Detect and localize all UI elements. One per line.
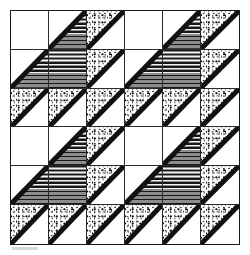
- quilt-cell: [125, 166, 163, 205]
- quilt-patch-dots: [201, 127, 239, 165]
- quilt-cell: [11, 11, 49, 50]
- quilt-patch-dots: [201, 11, 239, 49]
- pattern-grid: [11, 11, 239, 244]
- quilt-cell: [201, 50, 239, 89]
- quilt-cell: [49, 50, 87, 89]
- quilt-cell: [11, 50, 49, 89]
- quilt-patch-hatch: [125, 166, 162, 204]
- quilt-patch-hatch: [163, 50, 200, 88]
- quilt-patch-hatch: [163, 127, 200, 165]
- quilt-cell: [201, 166, 239, 205]
- quilt-patch-dots: [201, 89, 239, 127]
- quilt-cell: [87, 11, 125, 50]
- quilt-cell: [87, 127, 125, 166]
- quilt-cell: [87, 89, 125, 128]
- quilt-patch-hatch: [125, 50, 162, 88]
- quilt-patch-hatch: [11, 166, 48, 204]
- quilt-patch-dots: [163, 205, 200, 244]
- quilt-cell: [125, 50, 163, 89]
- quilt-patch-dots: [163, 89, 200, 127]
- quilt-patch-dots: [87, 89, 124, 127]
- caption-rule: [12, 247, 38, 250]
- quilt-cell: [125, 89, 163, 128]
- quilt-patch-dots: [201, 166, 239, 204]
- quilt-cell: [11, 127, 49, 166]
- quilt-patch-dots: [87, 166, 124, 204]
- quilt-patch-hatch: [49, 166, 86, 204]
- quilt-cell: [201, 205, 239, 244]
- quilt-cell: [125, 127, 163, 166]
- quilt-patch-dots: [87, 50, 124, 88]
- quilt-patch-dots: [201, 205, 239, 244]
- quilt-patch-hatch: [49, 127, 86, 165]
- quilt-patch-dots: [87, 11, 124, 49]
- quilt-cell: [163, 89, 201, 128]
- quilt-cell: [87, 166, 125, 205]
- quilt-cell: [163, 50, 201, 89]
- quilt-patch-hatch: [11, 50, 48, 88]
- quilt-cell: [49, 127, 87, 166]
- quilt-cell: [163, 205, 201, 244]
- quilt-patch-dots: [125, 89, 162, 127]
- quilt-cell: [201, 89, 239, 128]
- quilt-patch-dots: [49, 205, 86, 244]
- quilt-patch-dots: [87, 127, 124, 165]
- quilt-cell: [201, 127, 239, 166]
- quilt-patch-hatch: [49, 11, 86, 49]
- pattern-frame: [10, 10, 240, 245]
- quilt-cell: [87, 205, 125, 244]
- quilt-cell: [163, 11, 201, 50]
- quilt-patch-dots: [87, 205, 124, 244]
- quilt-patch-hatch: [49, 50, 86, 88]
- quilt-pattern-canvas: [0, 0, 250, 255]
- quilt-cell: [163, 127, 201, 166]
- quilt-cell: [11, 205, 49, 244]
- quilt-cell: [125, 11, 163, 50]
- quilt-cell: [49, 89, 87, 128]
- quilt-cell: [201, 11, 239, 50]
- quilt-cell: [49, 205, 87, 244]
- quilt-patch-hatch: [163, 166, 200, 204]
- quilt-patch-dots: [11, 205, 48, 244]
- quilt-patch-hatch: [163, 11, 200, 49]
- quilt-cell: [11, 89, 49, 128]
- quilt-patch-dots: [49, 89, 86, 127]
- quilt-cell: [163, 166, 201, 205]
- quilt-cell: [125, 205, 163, 244]
- quilt-cell: [49, 11, 87, 50]
- quilt-cell: [49, 166, 87, 205]
- quilt-patch-dots: [201, 50, 239, 88]
- quilt-cell: [87, 50, 125, 89]
- quilt-patch-dots: [11, 89, 48, 127]
- quilt-patch-dots: [125, 205, 162, 244]
- quilt-cell: [11, 166, 49, 205]
